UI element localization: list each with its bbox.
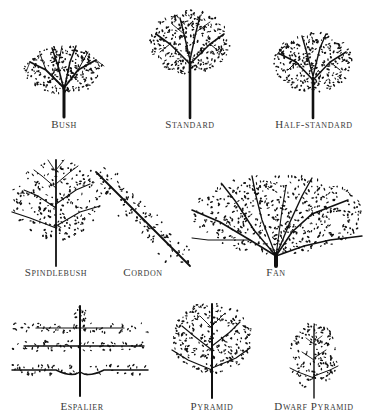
label-spindlebush: Spindlebush [25,266,88,278]
label-half-standard: Half-standard [275,118,352,130]
label-bush: Bush [51,118,77,130]
pyramid-tree-icon [172,304,250,398]
label-pyramid: Pyramid [191,400,234,412]
label-espalier: Espalier [60,400,103,412]
label-dwarf-pyramid: Dwarf Pyramid [274,400,353,412]
cordon-tree-icon [96,172,190,266]
label-standard: Standard [165,118,214,130]
bush-illustration [0,0,368,419]
half-standard-tree-icon [280,34,346,118]
label-fan: Fan [266,266,285,278]
label-cordon: Cordon [123,266,162,278]
